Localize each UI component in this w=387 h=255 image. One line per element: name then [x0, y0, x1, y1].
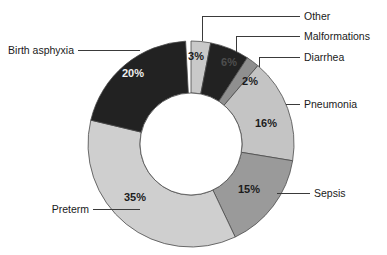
slice-label-sepsis: 15%	[238, 183, 260, 195]
slice-label-diarrhea: 2%	[242, 75, 258, 87]
slice-label-birth-asphyxia: 20%	[122, 67, 144, 79]
callout-other: Other	[304, 10, 331, 22]
callout-pneumonia: Pneumonia	[304, 98, 357, 110]
chart-figure: 3% 6% 2% 16% 15% 35% 20% Other Malformat…	[0, 0, 387, 255]
callout-sepsis: Sepsis	[314, 187, 346, 199]
slice-label-other: 3%	[188, 50, 204, 62]
donut-slices	[88, 41, 294, 247]
slice-label-preterm: 35%	[124, 191, 146, 203]
slice-label-pneumonia: 16%	[255, 117, 277, 129]
callout-malformations: Malformations	[304, 30, 370, 42]
callout-preterm: Preterm	[52, 203, 90, 215]
slice-label-malformations: 6%	[221, 56, 237, 68]
callout-diarrhea: Diarrhea	[304, 51, 344, 63]
donut-chart: 3% 6% 2% 16% 15% 35% 20% Other Malformat…	[0, 0, 387, 255]
donut-hole	[140, 93, 242, 195]
callout-birth-asphyxia: Birth asphyxia	[8, 44, 74, 56]
